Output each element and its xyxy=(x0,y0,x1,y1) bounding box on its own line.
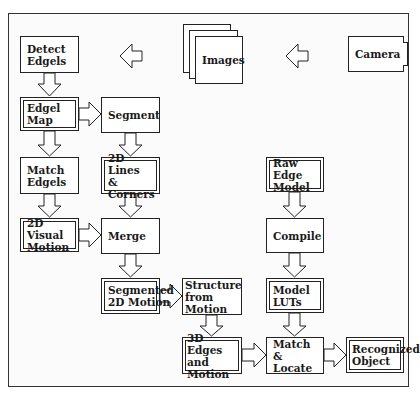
visual-motion-label: 2D Visual Motion xyxy=(27,217,75,253)
arrow-3d-to-matchlocate xyxy=(242,343,266,367)
arrow-merge-to-segmented xyxy=(119,254,142,277)
arrow-raw-to-compile xyxy=(283,192,306,217)
match-locate-node: Match & Locate xyxy=(266,337,324,374)
merge-label: Merge xyxy=(108,230,146,242)
edges-motion-3d-node: 3D Edges and Motion xyxy=(182,337,242,374)
raw-edge-model-node: Raw Edge Model xyxy=(266,157,324,192)
lines-corners-label: 2D Lines & Corners xyxy=(108,152,156,200)
segment-label: Segment xyxy=(108,109,160,121)
match-locate-label: Match & Locate xyxy=(273,338,323,374)
raw-edge-model-label: Raw Edge Model xyxy=(273,157,320,193)
compile-node: Compile xyxy=(266,218,324,253)
match-edgels-label: Match Edgels xyxy=(27,164,66,188)
compile-label: Compile xyxy=(273,230,321,242)
recognized-object-node: Recognized Object xyxy=(346,337,404,373)
arrow-luts-to-match xyxy=(283,313,306,336)
merge-node: Merge xyxy=(101,218,160,254)
images-label: Images xyxy=(202,54,245,66)
edges-motion-3d-label: 3D Edges and Motion xyxy=(187,332,238,380)
visual-motion-node: 2D Visual Motion xyxy=(20,218,79,252)
edgel-map-label: Edgel Map xyxy=(27,102,75,126)
segment-node: Segment xyxy=(101,97,160,133)
arrow-visual-to-merge xyxy=(79,223,101,247)
arrow-compile-to-luts xyxy=(283,253,306,277)
arrow-camera-to-images xyxy=(286,44,308,68)
model-luts-label: Model LUTs xyxy=(273,284,310,308)
arrow-images-to-detect xyxy=(120,44,142,68)
segmented-motion-node: Segmented 2D Motion xyxy=(101,278,160,314)
detect-edgels-node: Detect Edgels xyxy=(20,36,79,73)
segmented-motion-label: Segmented 2D Motion xyxy=(108,284,174,308)
edgel-map-node: Edgel Map xyxy=(20,97,79,131)
recognized-object-label: Recognized Object xyxy=(352,343,420,367)
arrow-detect-to-edgelmap xyxy=(38,73,61,96)
arrow-matchlocate-to-recognized xyxy=(324,343,346,367)
camera-lens-notch xyxy=(403,42,408,66)
arrow-edgelmap-to-segment xyxy=(79,102,101,126)
lines-corners-node: 2D Lines & Corners xyxy=(101,157,160,194)
model-luts-node: Model LUTs xyxy=(266,278,324,313)
arrow-match-to-visual xyxy=(38,194,61,217)
arrow-edgelmap-to-match xyxy=(38,131,61,156)
camera-label: Camera xyxy=(355,48,400,60)
match-edgels-node: Match Edgels xyxy=(20,157,79,194)
structure-motion-node: Structure from Motion xyxy=(182,278,242,315)
detect-edgels-label: Detect Edgels xyxy=(27,43,66,67)
camera-node: Camera xyxy=(348,36,404,72)
structure-motion-label: Structure from Motion xyxy=(185,279,242,315)
